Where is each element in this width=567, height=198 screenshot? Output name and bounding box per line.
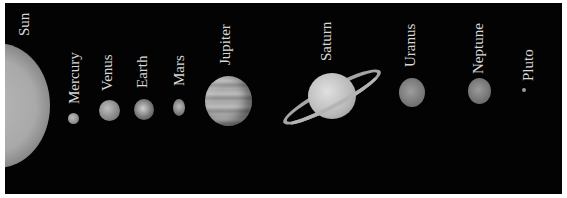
uranus [399, 78, 425, 107]
venus [99, 100, 120, 121]
label-sun: Sun [17, 13, 32, 36]
solar-system-image: Sun Mercury Venus Earth Mars Jupiter Sat… [5, 3, 562, 194]
earth [134, 99, 154, 120]
mars [173, 99, 185, 116]
label-earth: Earth [135, 56, 150, 88]
label-venus: Venus [100, 54, 115, 91]
jupiter [205, 76, 252, 126]
sun [5, 43, 50, 168]
label-jupiter: Jupiter [218, 24, 233, 65]
label-saturn: Saturn [319, 22, 334, 61]
label-pluto: Pluto [521, 49, 536, 81]
neptune [468, 78, 491, 104]
pluto [522, 88, 526, 92]
label-mars: Mars [172, 55, 187, 86]
mercury [68, 113, 79, 124]
label-uranus: Uranus [403, 24, 418, 67]
label-mercury: Mercury [67, 52, 82, 104]
label-neptune: Neptune [471, 23, 486, 74]
saturn [277, 58, 387, 138]
